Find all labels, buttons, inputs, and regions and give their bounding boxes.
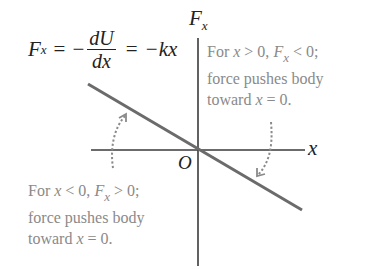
equals-sign: =: [54, 37, 66, 62]
annotation-positive-x: For x > 0, Fx < 0; force pushes body tow…: [207, 41, 323, 110]
derivative-fraction: dU dx: [87, 28, 115, 71]
annotation-negative-x: For x < 0, Fx > 0; force pushes body tow…: [28, 180, 144, 249]
y-axis-label-main: F: [189, 6, 202, 30]
y-axis-label: Fx: [189, 6, 208, 34]
annotation-positive-x-line3: toward x = 0.: [207, 89, 323, 110]
y-axis-label-subscript: x: [202, 18, 208, 33]
force-equation: Fx = − dU dx = −kx: [28, 28, 177, 71]
fraction-denominator: dx: [92, 50, 111, 71]
minus-sign: −: [72, 37, 84, 62]
left-dashed-arrow: [112, 116, 125, 168]
equation-lhs: F: [28, 37, 41, 62]
origin-label: O: [178, 152, 192, 174]
equation-lhs-subscript: x: [41, 42, 47, 58]
force-graph-diagram: Fx = − dU dx = −kx Fx x O For x > 0, Fx …: [0, 0, 373, 269]
annotation-positive-x-line2: force pushes body: [207, 68, 323, 89]
annotation-positive-x-line1: For x > 0, Fx < 0;: [207, 41, 323, 68]
annotation-negative-x-line2: force pushes body: [28, 207, 144, 228]
equation-rhs: −kx: [145, 37, 178, 62]
left-arrowhead-icon: [119, 114, 126, 122]
equals-sign-2: =: [126, 37, 138, 62]
right-arrowhead-icon: [257, 168, 265, 176]
annotation-negative-x-line1: For x < 0, Fx > 0;: [28, 180, 144, 207]
x-axis-label: x: [308, 136, 317, 161]
annotation-negative-x-line3: toward x = 0.: [28, 228, 144, 249]
fraction-numerator: dU: [87, 28, 115, 50]
right-dashed-arrow: [258, 122, 272, 175]
